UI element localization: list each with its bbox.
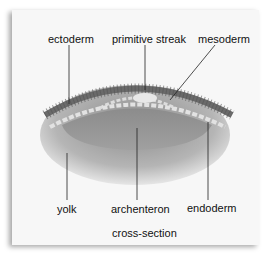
caption: cross-section xyxy=(112,227,177,239)
label-archenteron: archenteron xyxy=(111,203,170,215)
label-endoderm: endoderm xyxy=(187,202,237,214)
label-mesoderm: mesoderm xyxy=(198,33,250,45)
label-ectoderm: ectoderm xyxy=(48,33,94,45)
label-primitive-streak: primitive streak xyxy=(112,33,186,45)
label-yolk: yolk xyxy=(57,203,77,215)
primitive-streak-region xyxy=(133,93,157,103)
